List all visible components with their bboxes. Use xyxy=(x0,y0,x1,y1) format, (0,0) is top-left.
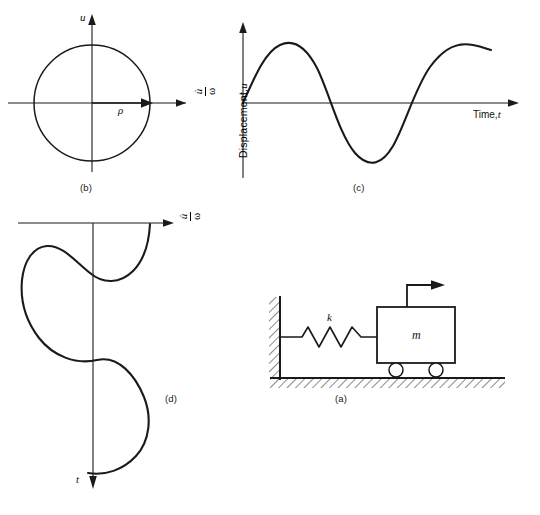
panel-d-caption: (d) xyxy=(165,393,177,404)
udot-over-omega-fraction: u̇ ω xyxy=(193,87,217,96)
fraction-denominator: ω xyxy=(206,87,218,96)
fraction-numerator: u̇ xyxy=(178,212,191,221)
mass-label: m xyxy=(412,328,421,343)
udot-over-omega-fraction: u̇ ω xyxy=(178,212,202,221)
panel-c-horizontal-axis xyxy=(243,99,519,107)
panel-c-y-axis-label-text: Displacement, xyxy=(237,89,249,158)
velocity-vertical-curve xyxy=(22,224,150,474)
wheels xyxy=(389,363,443,377)
panel-d-time-axis xyxy=(89,223,97,489)
panel-c-displacement-time-plot: Displacement,u Time,t (c) xyxy=(225,0,540,205)
wheel-right xyxy=(429,363,443,377)
panel-d-axis-label: u̇ ω xyxy=(178,212,204,221)
panel-b-vertical-axis xyxy=(88,14,96,172)
panel-c-x-axis-label: Time,t xyxy=(473,108,501,120)
panel-b-caption: (b) xyxy=(80,182,92,193)
spring xyxy=(280,327,377,347)
panel-b-vertical-axis-label: u xyxy=(80,11,86,23)
panel-a-caption: (a) xyxy=(335,393,347,404)
panel-b-rotating-vector-circle: u ρ u̇ ω (b) xyxy=(0,0,225,205)
spring-label: k xyxy=(327,311,332,323)
fraction-numerator: u̇ xyxy=(193,87,206,96)
panel-c-y-axis-label-symbol: u xyxy=(237,83,249,89)
radius-vector-label: ρ xyxy=(118,104,123,116)
panel-b-svg xyxy=(0,0,225,205)
panel-d-svg xyxy=(0,205,250,515)
wheel-left xyxy=(389,363,403,377)
displacement-arrow xyxy=(407,280,445,307)
panel-a-mass-spring-system: k m (a) xyxy=(255,275,540,415)
panel-d-time-axis-label: t xyxy=(76,473,79,485)
panel-c-caption: (c) xyxy=(353,182,365,193)
panel-c-svg xyxy=(225,0,540,205)
panel-b-horizontal-axis-label: u̇ ω xyxy=(193,87,219,96)
panel-c-x-axis-label-symbol: t xyxy=(498,108,501,120)
ground-surface xyxy=(270,378,505,388)
figure-canvas: u ρ u̇ ω (b) xyxy=(0,0,540,515)
panel-c-x-axis-label-text: Time, xyxy=(473,109,498,120)
fraction-denominator: ω xyxy=(191,212,203,221)
panel-a-svg xyxy=(255,275,540,415)
panel-c-y-axis-label: Displacement,u xyxy=(237,83,249,158)
panel-d-velocity-time-vertical-plot: u̇ ω t (d) xyxy=(0,205,250,515)
fixed-wall xyxy=(269,296,280,380)
